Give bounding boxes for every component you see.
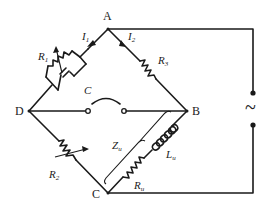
label-lu: Lu [165,148,176,162]
node-c-dot [107,192,110,195]
ac-source-symbol: ~ [245,96,256,118]
resistor-r3 [140,60,156,79]
branch-b-c [105,111,188,193]
branch-a-d [29,29,108,111]
label-i2: I2 [127,30,136,44]
branch-a-b [108,29,187,111]
source-terminal-bottom [250,122,255,127]
headphone-arc [92,99,120,105]
node-a-dot [107,28,110,31]
resistor-r1 [46,46,80,77]
label-i1: I1 [81,30,89,44]
label-r1: R1 [37,50,48,64]
resistor-r2 [59,140,76,160]
detector-branch [29,99,187,114]
branch-d-c [29,111,108,193]
node-label-a: A [103,9,112,23]
node-label-c: C [92,187,100,201]
node-d-dot [28,110,31,113]
circuit-canvas: A B C D I1 I2 R1 R3 C R2 Zu Lu Ru ~ [0,0,273,208]
bridge-circuit-diagram: A B C D I1 I2 R1 R3 C R2 Zu Lu Ru ~ [0,0,273,208]
node-b-dot [186,110,189,113]
label-r2: R2 [48,168,60,182]
label-c: C [84,84,92,96]
node-label-d: D [15,104,24,118]
source-terminal-top [250,90,255,95]
node-label-b: B [192,104,200,118]
label-r3: R3 [157,54,169,68]
detector-terminal-left [86,109,91,114]
label-ru: Ru [133,179,145,193]
inductor-lu [152,125,177,150]
label-zu: Zu [112,139,122,153]
resistor-ru [123,157,144,178]
